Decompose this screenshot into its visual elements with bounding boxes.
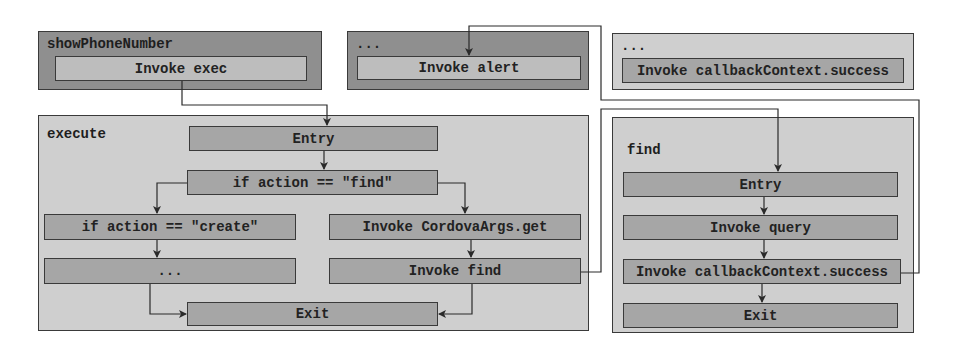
- node-if-find: if action == "find": [187, 170, 438, 195]
- node-find-entry: Entry: [623, 172, 898, 197]
- node-invoke-callback-success-find: Invoke callbackContext.success: [623, 259, 901, 284]
- node-invoke-exec: Invoke exec: [55, 56, 307, 81]
- node-if-create: if action == "create": [44, 214, 296, 240]
- node-invoke-find: Invoke find: [329, 258, 581, 284]
- node-ellipsis: ...: [44, 258, 296, 284]
- node-invoke-query: Invoke query: [623, 215, 898, 240]
- node-invoke-alert: Invoke alert: [357, 56, 581, 80]
- node-find-exit: Exit: [623, 303, 898, 328]
- group-title-caller-success: ...: [621, 38, 646, 54]
- group-title-find: find: [627, 142, 661, 158]
- node-invoke-callback-success-caller: Invoke callbackContext.success: [622, 58, 904, 83]
- group-title-execute: execute: [47, 126, 106, 142]
- node-execute-exit: Exit: [187, 302, 438, 326]
- group-title-caller-alert: ...: [356, 36, 381, 52]
- node-execute-entry: Entry: [189, 126, 438, 151]
- node-cordova-args-get: Invoke CordovaArgs.get: [329, 214, 581, 240]
- group-title-showphonenumber: showPhoneNumber: [47, 36, 173, 52]
